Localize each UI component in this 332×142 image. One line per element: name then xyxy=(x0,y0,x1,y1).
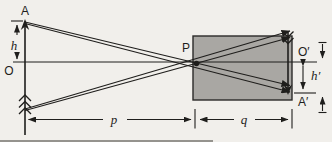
label-image-axis-point: O′ xyxy=(298,45,310,59)
label-object-height: h xyxy=(11,38,18,53)
label-axis-origin: O xyxy=(4,64,13,78)
label-image-distance: q xyxy=(241,112,248,127)
optics-figure: A O P O′ A′ h h′ p q xyxy=(0,0,332,142)
diagram-canvas: A O P O′ A′ h h′ p q xyxy=(0,0,332,142)
label-object-distance: p xyxy=(110,112,118,127)
label-object-tip: A xyxy=(21,4,29,18)
label-pinhole: P xyxy=(182,41,190,55)
label-image-height: h′ xyxy=(311,68,321,83)
label-image-tip: A′ xyxy=(298,95,309,109)
pinhole-point xyxy=(194,61,199,66)
